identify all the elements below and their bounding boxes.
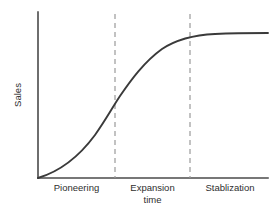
x-axis-label: time [115,194,190,206]
y-axis-label-wrapper: Sales [6,60,28,130]
chart-figure: Sales Pioneering Expansion time Stabliza… [0,0,278,216]
stage-label-pioneering: Pioneering [38,182,115,194]
stage-label-stablization-text: Stablization [205,182,254,193]
stage-label-expansion: Expansion time [115,182,190,205]
sales-curve [38,33,268,178]
stage-label-expansion-text: Expansion [130,182,174,193]
stage-label-pioneering-text: Pioneering [54,182,99,193]
stage-label-stablization: Stablization [190,182,270,194]
y-axis-label: Sales [12,83,23,107]
